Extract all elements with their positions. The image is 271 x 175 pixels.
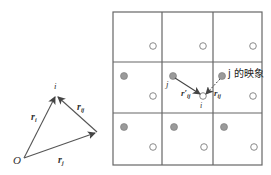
label-r-ij-image: rij	[214, 88, 221, 99]
open-circle	[150, 43, 157, 50]
label-i: i	[200, 101, 202, 110]
filled-dots	[121, 73, 228, 131]
filled-dot-j-image	[219, 73, 226, 80]
label-j-image: j 的映象	[227, 67, 264, 79]
filled-dot	[221, 124, 228, 131]
label-r-j: rj	[58, 154, 64, 166]
open-circle	[201, 144, 208, 151]
label-j: j	[165, 79, 169, 89]
open-circles	[150, 43, 258, 151]
periodic-boundary-diagram: O i ri rj rij	[0, 0, 271, 175]
open-circle	[251, 144, 258, 151]
open-circle-i	[200, 93, 207, 100]
periodic-grid	[113, 12, 262, 165]
open-circle	[200, 43, 207, 50]
filled-dot	[121, 124, 128, 131]
filled-dot	[171, 124, 178, 131]
open-circle	[250, 43, 257, 50]
open-circle	[150, 144, 157, 151]
point-O-label: O	[13, 154, 21, 166]
label-r-ij: rij	[77, 101, 85, 113]
filled-dot	[121, 73, 128, 80]
open-circle	[150, 93, 157, 100]
open-circle	[250, 93, 257, 100]
label-r-i: ri	[31, 111, 37, 123]
label-r-prime-ij: r′ij	[181, 88, 191, 99]
vector-r-prime-ij	[175, 78, 200, 94]
vector-triangle: O i ri rj rij	[13, 81, 97, 166]
point-i-label: i	[54, 81, 57, 91]
